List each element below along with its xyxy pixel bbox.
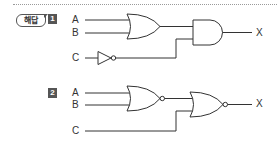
nor-gate-icon-2 <box>190 92 223 117</box>
nor-gate-icon-1 <box>127 86 160 111</box>
not-bubble-icon <box>111 56 115 60</box>
not-gate-icon <box>98 52 111 65</box>
logic-circuits <box>0 0 277 141</box>
circuit-1 <box>85 14 252 65</box>
circuit-2 <box>85 86 252 131</box>
wire-not-out <box>116 39 193 58</box>
and-gate-icon <box>193 20 222 45</box>
wire-c-2 <box>85 111 193 131</box>
nor-bubble-icon-1 <box>160 96 164 100</box>
nor-bubble-icon-2 <box>223 102 227 106</box>
or-gate-icon <box>127 14 160 39</box>
